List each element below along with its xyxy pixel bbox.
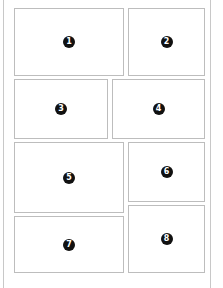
number-badge: 3 [55,103,67,115]
number-badge: 8 [161,233,173,245]
number-badge: 2 [161,36,173,48]
number-badge: 7 [63,239,75,251]
panel-5: 5 [14,142,124,213]
panel-2: 2 [128,8,205,76]
number-badge: 6 [161,166,173,178]
panel-3: 3 [14,79,108,139]
number-badge: 4 [153,103,165,115]
panel-4: 4 [112,79,205,139]
panel-7: 7 [14,216,124,273]
number-badge: 1 [63,36,75,48]
panel-8: 8 [128,205,205,273]
panel-1: 1 [14,8,124,76]
number-badge: 5 [63,172,75,184]
panel-6: 6 [128,142,205,202]
